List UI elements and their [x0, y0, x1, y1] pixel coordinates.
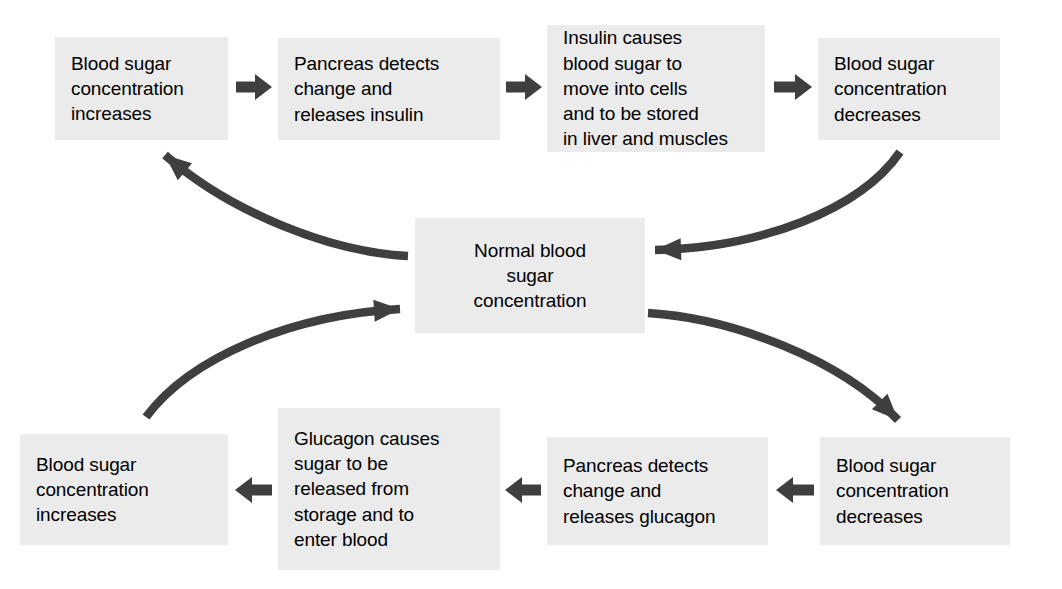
- node-label: Glucagon causes sugar to be released fro…: [294, 426, 492, 552]
- node-label: Blood sugar concentration decreases: [836, 453, 1002, 529]
- node-label: Insulin causes blood sugar to move into …: [563, 25, 757, 151]
- curve-top-right-to-center-head: [655, 238, 681, 260]
- curve-top-right-to-center: [655, 152, 900, 250]
- arrow-top-3-to-4: [774, 74, 812, 100]
- arrow-bottom-2-to-1: [235, 477, 272, 503]
- node-label: Pancreas detects change and releases ins…: [294, 51, 492, 127]
- diagram-canvas: Blood sugar concentration increases Panc…: [0, 0, 1062, 589]
- curve-bottom-left-to-center: [146, 309, 400, 417]
- arrow-top-1-to-2: [236, 74, 272, 100]
- node-label: Normal blood sugar concentration: [474, 238, 587, 314]
- arrow-bottom-4-to-3: [776, 477, 814, 503]
- curve-center-to-top-left-head: [165, 155, 192, 180]
- node-label: Blood sugar concentration increases: [36, 452, 220, 528]
- blood-sugar-increases-bottom: Blood sugar concentration increases: [20, 434, 228, 545]
- curve-center-to-bottom-right-head: [872, 394, 898, 420]
- arrow-top-2-to-3: [506, 74, 542, 100]
- node-label: Pancreas detects change and releases glu…: [563, 453, 760, 529]
- pancreas-releases-insulin: Pancreas detects change and releases ins…: [278, 38, 500, 140]
- insulin-action: Insulin causes blood sugar to move into …: [547, 25, 765, 152]
- curve-center-to-bottom-right: [648, 313, 898, 420]
- node-label: Blood sugar concentration increases: [71, 51, 220, 127]
- normal-blood-sugar-concentration: Normal blood sugar concentration: [415, 218, 645, 333]
- pancreas-releases-glucagon: Pancreas detects change and releases glu…: [547, 437, 768, 545]
- arrow-bottom-3-to-2: [505, 477, 541, 503]
- blood-sugar-decreases-top: Blood sugar concentration decreases: [818, 38, 1000, 140]
- blood-sugar-increases-top: Blood sugar concentration increases: [55, 37, 228, 140]
- glucagon-action: Glucagon causes sugar to be released fro…: [278, 408, 500, 570]
- node-label: Blood sugar concentration decreases: [834, 51, 992, 127]
- curve-center-to-top-left: [165, 155, 408, 256]
- curve-bottom-left-to-center-head: [373, 300, 400, 322]
- blood-sugar-decreases-bottom: Blood sugar concentration decreases: [820, 437, 1010, 545]
